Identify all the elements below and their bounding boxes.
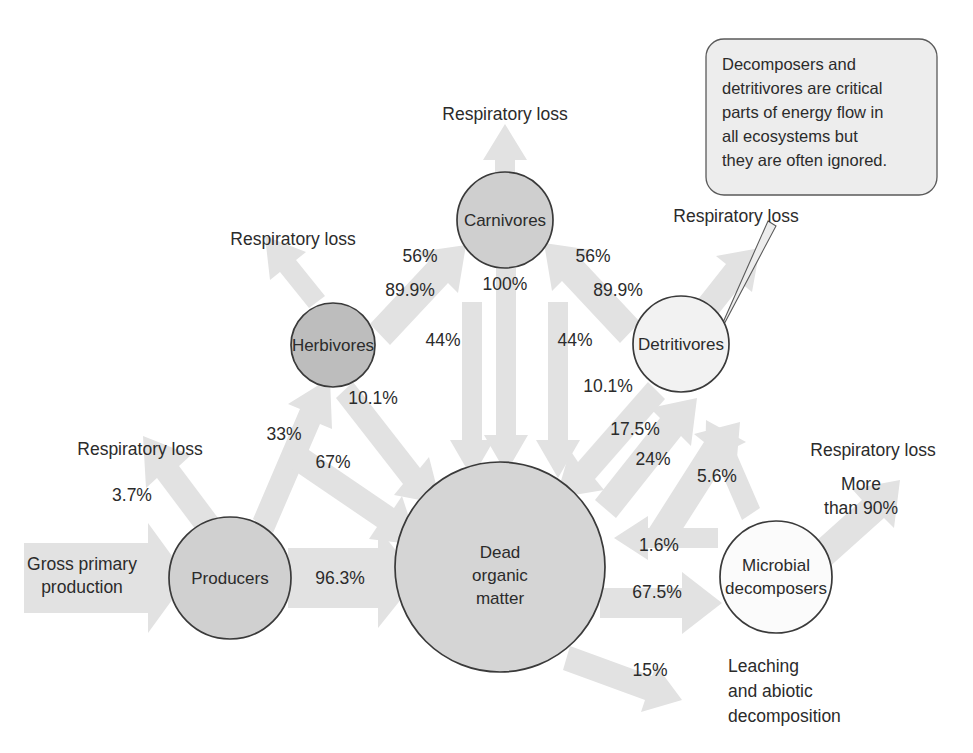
flow-label-dead-to-detritivores-17: 17.5%	[610, 419, 660, 439]
carnivores-label: Carnivores	[464, 211, 546, 230]
flow-label-dead-to-leaching-15: 15%	[632, 660, 667, 680]
node-carnivores[interactable]: Carnivores	[457, 172, 553, 268]
label-respiratory-loss-microbial: Respiratory loss	[810, 440, 936, 460]
flow-label-dead-to-microbial-675: 67.5%	[632, 582, 682, 602]
flow-label-herbivores-respiration: 89.9%	[385, 280, 435, 300]
leaching-line-1: and abiotic	[728, 681, 813, 701]
flow-label-detritivores-intake-24: 24%	[635, 449, 670, 469]
energy-flow-diagram: Decomposers and detritivores are critica…	[0, 0, 973, 753]
microbial-decomposers-label-line-0: Microbial	[742, 556, 810, 575]
arrow-carnivores-right-44-to-dead	[536, 302, 580, 478]
leaching-line-2: decomposition	[728, 706, 841, 726]
node-dead-organic-matter[interactable]: Dead organic matter	[395, 462, 605, 672]
flow-label-microbial-to-dead-16: 1.6%	[639, 535, 679, 555]
herbivores-label: Herbivores	[292, 336, 374, 355]
flow-label-detritivores-respiration: 89.9%	[593, 280, 643, 300]
flow-label-detritivores-to-carnivores: 56%	[575, 246, 610, 266]
callout-group: Decomposers and detritivores are critica…	[706, 39, 937, 345]
microbial-respiration-line-0: More	[841, 474, 881, 494]
label-respiratory-loss-producers: Respiratory loss	[77, 439, 203, 459]
diagram-canvas: Decomposers and detritivores are critica…	[0, 0, 973, 753]
flow-label-herbivores-to-carnivores: 56%	[402, 246, 437, 266]
flow-label-producers-to-herbivores: 33%	[266, 424, 301, 444]
microbial-decomposers-label-line-1: decomposers	[725, 579, 827, 598]
flow-label-detritivores-to-dead: 10.1%	[583, 376, 633, 396]
gross-primary-production-line-0: Gross primary	[27, 554, 137, 574]
detritivores-label: Detritivores	[638, 335, 724, 354]
leaching-line-0: Leaching	[728, 656, 799, 676]
callout-line-2: parts of energy flow in	[722, 103, 883, 121]
flow-label-carnivores-left-44: 44%	[425, 330, 460, 350]
node-producers[interactable]: Producers	[169, 517, 291, 639]
node-detritivores[interactable]: Detritivores	[633, 296, 729, 392]
label-respiratory-loss-detritivores: Respiratory loss	[673, 206, 799, 226]
dead-organic-matter-label-line-0: Dead	[480, 543, 521, 562]
flow-label-producers-respiration: 3.7%	[112, 485, 152, 505]
label-respiratory-loss-herbivores: Respiratory loss	[230, 229, 356, 249]
arrow-carnivores-left-44-to-dead	[450, 302, 494, 478]
producers-label: Producers	[191, 569, 268, 588]
microbial-decomposers-circle[interactable]	[720, 521, 832, 633]
dead-organic-matter-label-line-1: organic	[472, 566, 528, 585]
label-respiratory-loss-carnivores: Respiratory loss	[442, 104, 568, 124]
flow-label-microbial-to-detritivores-56: 5.6%	[697, 466, 737, 486]
label-leaching-abiotic-decomposition: Leaching and abiotic decomposition	[728, 656, 841, 726]
flow-label-carnivores-respiration: 100%	[483, 274, 528, 294]
flow-label-carnivores-right-44: 44%	[557, 330, 592, 350]
dead-organic-matter-label-line-2: matter	[476, 589, 525, 608]
callout-line-1: detritivores are critical	[722, 79, 882, 97]
gross-primary-production-line-1: production	[41, 577, 123, 597]
arrow-carnivores-to-dead	[484, 268, 528, 473]
flow-label-herbivores-to-dead: 10.1%	[348, 388, 398, 408]
flow-label-unconsumed-67: 67%	[315, 452, 350, 472]
callout-line-4: they are often ignored.	[722, 151, 887, 169]
callout-line-3: all ecosystems but	[722, 127, 858, 145]
node-microbial-decomposers[interactable]: Microbial decomposers	[720, 521, 832, 633]
microbial-respiration-line-1: than 90%	[824, 498, 898, 518]
flow-label-producers-to-dead: 96.3%	[315, 568, 365, 588]
node-herbivores[interactable]: Herbivores	[291, 303, 375, 387]
callout-line-0: Decomposers and	[722, 55, 856, 73]
